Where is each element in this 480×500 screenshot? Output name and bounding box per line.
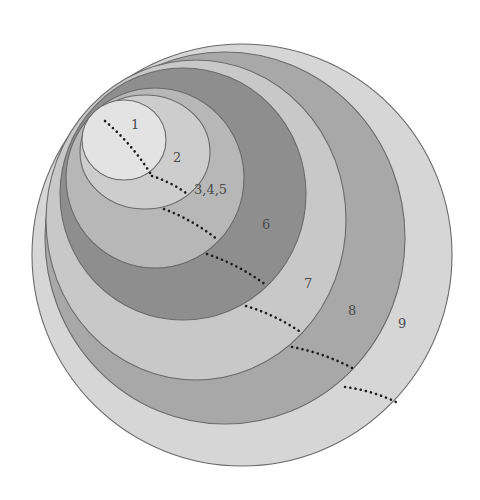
nested-regions-diagram: 98763,4,521 — [0, 0, 480, 500]
region-label-7: 7 — [304, 276, 312, 291]
region-label-6: 6 — [262, 217, 270, 232]
region-label-8: 8 — [348, 303, 356, 318]
region-label-2: 2 — [173, 150, 181, 165]
region-label-1: 1 — [131, 117, 139, 132]
region-label-9: 9 — [398, 316, 406, 331]
region-label-3-4-5: 3,4,5 — [194, 182, 227, 197]
regions-layer — [32, 44, 452, 466]
